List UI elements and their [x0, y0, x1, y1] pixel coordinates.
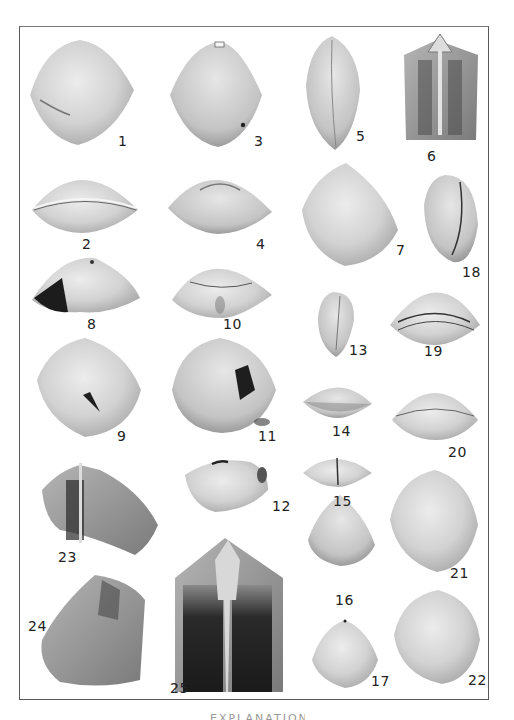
label-2: 2 — [82, 236, 91, 252]
specimen-7 — [302, 163, 398, 266]
label-25: 25 — [170, 680, 189, 696]
label-9: 9 — [117, 428, 126, 444]
fossil-plate — [0, 0, 514, 720]
label-21: 21 — [450, 565, 469, 581]
specimen-12 — [185, 460, 268, 512]
label-12: 12 — [272, 498, 291, 514]
label-14: 14 — [332, 423, 351, 439]
specimen-25 — [175, 538, 283, 692]
specimen-10 — [172, 269, 272, 318]
label-13: 13 — [349, 342, 368, 358]
label-8: 8 — [87, 316, 96, 332]
specimen-6 — [404, 34, 478, 140]
label-6: 6 — [427, 148, 436, 164]
label-18: 18 — [462, 264, 481, 280]
specimen-5 — [306, 36, 360, 150]
label-10: 10 — [223, 316, 242, 332]
specimen-2 — [32, 180, 138, 233]
label-24: 24 — [28, 618, 47, 634]
label-1: 1 — [118, 133, 127, 149]
label-20: 20 — [448, 444, 467, 460]
label-7: 7 — [396, 242, 405, 258]
specimen-15 — [303, 458, 372, 487]
specimen-20 — [392, 393, 478, 440]
specimen-21 — [390, 470, 478, 572]
specimen-1 — [30, 40, 134, 145]
label-16: 16 — [335, 592, 354, 608]
specimen-24 — [41, 575, 145, 686]
specimen-23 — [42, 463, 158, 555]
specimen-18 — [424, 175, 478, 262]
specimen-9 — [37, 338, 141, 437]
specimen-17 — [312, 620, 378, 689]
label-5: 5 — [356, 128, 365, 144]
label-23: 23 — [58, 549, 77, 565]
specimen-14 — [303, 387, 372, 418]
specimen-11 — [172, 338, 276, 433]
label-3: 3 — [254, 133, 263, 149]
specimen-4 — [168, 180, 272, 234]
label-4: 4 — [256, 236, 265, 252]
label-17: 17 — [371, 673, 390, 689]
label-19: 19 — [424, 343, 443, 359]
specimen-22 — [394, 590, 480, 684]
label-15: 15 — [333, 493, 352, 509]
specimen-19 — [390, 293, 480, 346]
specimen-3 — [170, 42, 262, 147]
plate-caption: EXPLANATION — [210, 712, 305, 720]
specimen-8 — [32, 258, 140, 313]
label-11: 11 — [258, 428, 277, 444]
label-22: 22 — [468, 672, 487, 688]
